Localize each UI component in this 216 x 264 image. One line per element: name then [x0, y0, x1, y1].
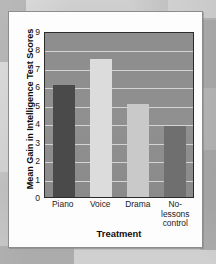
x-axis-tick-label: Voice — [82, 200, 118, 210]
y-axis-tick-label: 1 — [25, 176, 40, 184]
y-axis-tick-label: 6 — [25, 83, 40, 91]
bar — [90, 59, 112, 197]
y-axis-tick-labels: 9876543210 — [25, 28, 40, 198]
bar — [127, 104, 149, 197]
x-axis-tick-labels: PianoVoiceDramaNo-lessons control — [44, 200, 194, 230]
x-axis-tick-label: Piano — [45, 200, 81, 210]
y-axis-tick-label: 2 — [25, 157, 40, 165]
bar — [164, 126, 186, 197]
backdrop-blotch — [74, 250, 216, 264]
y-axis-tick-label: 7 — [25, 65, 40, 73]
bar — [53, 85, 75, 198]
y-axis-tick-label: 4 — [25, 120, 40, 128]
bars-layer — [45, 33, 193, 197]
plot-area — [44, 32, 194, 198]
y-axis-tick-label: 8 — [25, 46, 40, 54]
bar-chart: Mean Gain in Intelligence Test Scores 98… — [9, 12, 204, 249]
x-axis-tick-label: Drama — [120, 200, 156, 210]
y-axis-tick-label: 5 — [25, 102, 40, 110]
x-axis-tick-label: No-lessons control — [157, 200, 193, 229]
x-axis-title: Treatment — [44, 228, 194, 239]
figure-card: Mean Gain in Intelligence Test Scores 98… — [8, 11, 203, 248]
y-axis-tick-label: 0 — [25, 194, 40, 202]
y-axis-tick-label: 9 — [25, 28, 40, 36]
y-axis-tick-label: 3 — [25, 139, 40, 147]
